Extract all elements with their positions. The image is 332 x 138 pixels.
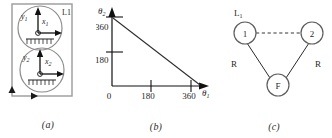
panel-a: L1 bbox=[0, 0, 96, 138]
panel-b-caption: (b) bbox=[96, 121, 216, 132]
graph-node-F-label: F bbox=[275, 81, 280, 91]
body-1-y-arrow-icon bbox=[35, 7, 41, 15]
panel-c-caption: (c) bbox=[216, 121, 332, 132]
chart-series-constraint-line bbox=[113, 18, 200, 85]
graph-edge-2-F bbox=[286, 43, 309, 78]
graph-edge-1-F bbox=[247, 43, 270, 78]
graph-edge-label-left: R bbox=[231, 59, 237, 69]
graph-node-2-label: 2 bbox=[310, 29, 315, 39]
chart-y-axis-label: θ2 bbox=[98, 6, 105, 17]
chart-x-ticklabel-0: 0 bbox=[107, 91, 112, 101]
graph-edge-label-top: L1 bbox=[234, 8, 243, 19]
panel-a-drawing: L1 bbox=[0, 0, 96, 120]
chart-y-ticklabel-180: 180 bbox=[96, 55, 109, 65]
body-1: x1 y1 bbox=[18, 6, 62, 50]
body-1-x-label: x1 bbox=[41, 17, 49, 27]
chart-x-ticklabel-180: 180 bbox=[141, 91, 155, 101]
boundary-arrow-left-icon bbox=[9, 86, 16, 93]
boundary-arrow-bottom-icon bbox=[31, 93, 38, 100]
panel-c: 1 2 F L1 R R (c) bbox=[216, 0, 332, 138]
contact-graph: 1 2 F L1 R R bbox=[216, 0, 332, 120]
panel-a-caption: (a) bbox=[0, 119, 96, 130]
body-1-y-label: y1 bbox=[20, 12, 28, 22]
graph-node-1-label: 1 bbox=[243, 29, 248, 39]
body-2-x-label: x2 bbox=[44, 57, 52, 67]
chart-x-axis-label: θ1 bbox=[202, 88, 209, 99]
body-2-hatching bbox=[29, 80, 53, 85]
graph-edge-label-right: R bbox=[315, 59, 321, 69]
boundary-label: L1 bbox=[62, 8, 71, 17]
chart-plot: θ2 θ1 360 180 0 180 360 bbox=[96, 0, 216, 120]
chart-y-axis-arrow-icon bbox=[108, 7, 115, 17]
body-2: x2 y2 bbox=[20, 48, 64, 92]
body-1-hatching bbox=[27, 39, 51, 44]
body-2-y-label: y2 bbox=[22, 53, 30, 63]
figure-container: L1 bbox=[0, 0, 332, 138]
chart-x-ticklabel-360: 360 bbox=[182, 91, 196, 101]
panel-b: θ2 θ1 360 180 0 180 360 (b) bbox=[96, 0, 216, 138]
chart-y-ticklabel-360: 360 bbox=[96, 22, 109, 32]
